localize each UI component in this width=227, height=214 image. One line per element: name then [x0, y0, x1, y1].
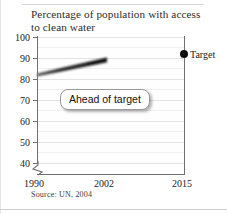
- x-tick-label-2002: 2002: [94, 178, 114, 189]
- y-axis-line: [37, 36, 38, 164]
- y-tick-mark-100: [33, 37, 37, 38]
- target-marker-dot: [180, 50, 188, 58]
- source-note: Source: UN, 2004: [31, 190, 92, 199]
- y-tick-label-80: 80: [4, 74, 30, 85]
- y-tick-mark-60: [33, 121, 37, 122]
- y-tick-label-90: 90: [4, 53, 30, 64]
- y-tick-label-50: 50: [4, 137, 30, 148]
- y-tick-label-60: 60: [4, 116, 30, 127]
- y-tick-mark-70: [33, 100, 37, 101]
- y-tick-mark-80: [33, 79, 37, 80]
- target-label: Target: [190, 49, 215, 60]
- y-tick-label-70: 70: [4, 95, 30, 106]
- chart-figure: Percentage of population with access to …: [0, 0, 227, 214]
- y-tick-mark-50: [33, 142, 37, 143]
- left-edge-divider: [0, 0, 1, 214]
- x-tick-label-1990: 1990: [24, 178, 44, 189]
- x-tick-label-2015: 2015: [172, 178, 192, 189]
- callout-ahead-of-target: Ahead of target: [60, 89, 150, 110]
- bottom-divider: [0, 209, 227, 210]
- y-tick-label-40: 40: [4, 158, 30, 169]
- gridline-40: [37, 163, 184, 164]
- y-tick-label-100: 100: [4, 32, 30, 43]
- y-tick-mark-90: [33, 58, 37, 59]
- top-divider: [22, 4, 204, 5]
- chart-title: Percentage of population with access to …: [31, 8, 201, 34]
- y-tick-mark-40: [33, 163, 37, 164]
- x-axis-line: [37, 174, 185, 175]
